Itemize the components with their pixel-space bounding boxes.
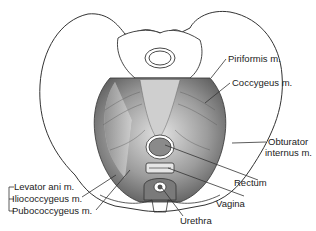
label-pubococcygeus: Pubococcygeus m. [12,206,92,216]
label-levator-ani: Levator ani m. [14,182,74,192]
urethra [144,179,176,201]
sacrum [117,30,202,78]
label-piriformis: Piriformis m. [228,54,281,64]
label-rectum: Rectum [234,178,267,188]
vagina [146,163,174,173]
label-coccygeus: Coccygeus m. [232,78,292,88]
label-urethra: Urethra [180,216,212,226]
label-obturator-internus-2: internus m. [265,148,312,158]
label-obturator-internus-1: Obturator [268,137,308,147]
pelvic-floor-diagram: Piriformis m. Coccygeus m. Obturator int… [0,0,316,231]
label-iliococcygeus: Iliococcygeus m. [12,194,82,204]
label-vagina: Vagina [216,199,245,209]
